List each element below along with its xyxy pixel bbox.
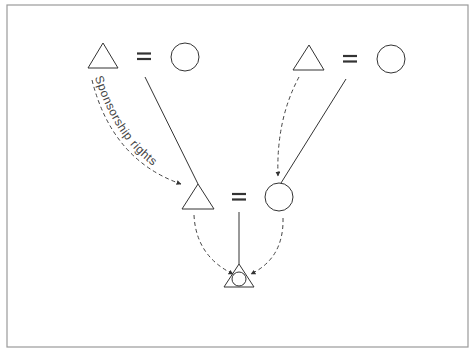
kinship-diagram: Sponsorship rights	[0, 0, 474, 350]
diagram-frame	[7, 5, 468, 347]
